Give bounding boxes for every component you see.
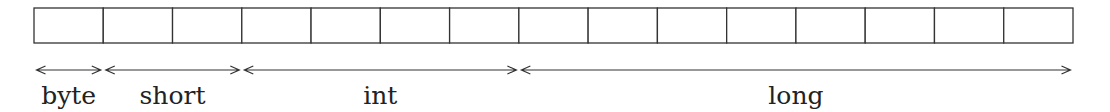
- memory-cell: [450, 8, 519, 43]
- double-arrow-icon: [37, 66, 101, 74]
- memory-cell: [727, 8, 796, 43]
- memory-cell: [173, 8, 242, 43]
- memory-cell: [865, 8, 934, 43]
- memory-cell: [519, 8, 588, 43]
- span-long: long: [521, 66, 1070, 110]
- double-arrow-icon: [521, 66, 1070, 74]
- span-label: long: [768, 81, 823, 110]
- span-label: byte: [41, 81, 96, 110]
- memory-cell: [1004, 8, 1073, 43]
- byte-layout-diagram: byteshortintlong: [0, 0, 1110, 112]
- span-label: short: [140, 81, 206, 110]
- double-arrow-icon: [244, 66, 516, 74]
- span-int: int: [244, 66, 516, 110]
- memory-cell: [34, 8, 103, 43]
- memory-cell: [657, 8, 726, 43]
- memory-cell: [311, 8, 380, 43]
- memory-cell: [380, 8, 449, 43]
- span-short: short: [106, 66, 240, 110]
- span-byte: byte: [37, 66, 101, 110]
- memory-cell: [588, 8, 657, 43]
- memory-cell: [103, 8, 172, 43]
- type-spans: byteshortintlong: [37, 66, 1071, 110]
- memory-cell: [242, 8, 311, 43]
- memory-cell: [796, 8, 865, 43]
- memory-cell: [934, 8, 1003, 43]
- memory-cells: [34, 8, 1073, 43]
- double-arrow-icon: [106, 66, 240, 74]
- span-label: int: [363, 81, 397, 110]
